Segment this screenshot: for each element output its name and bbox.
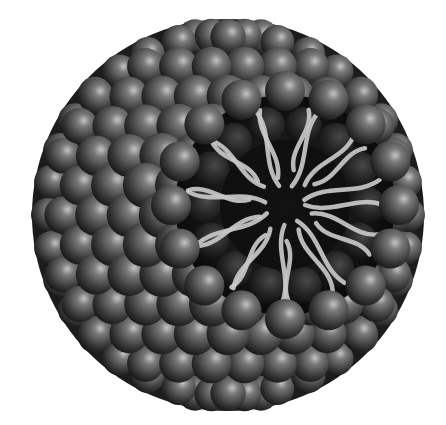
micelle-illustration [0,0,446,425]
micelle-graphic [0,0,446,425]
